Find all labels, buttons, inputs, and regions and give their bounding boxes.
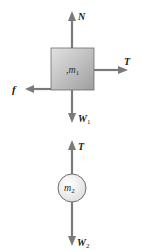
tension-force-label-block: T: [124, 56, 131, 67]
tension-force-label-ball: T: [78, 141, 85, 152]
friction-force-label: f: [12, 83, 17, 95]
free-body-diagram: N T f W1 ,m1 T: [0, 0, 142, 251]
weight-force-label-ball: W2: [77, 237, 90, 250]
tension-force-arrow-ball: [68, 140, 76, 174]
tension-force-arrow-block: [94, 66, 128, 74]
normal-force-arrow: [68, 11, 76, 48]
ball-fbd: T W2 m2: [58, 140, 90, 250]
friction-force-arrow: [25, 85, 51, 93]
weight-force-arrow-ball: [68, 202, 76, 246]
weight-force-arrow-block: [68, 90, 76, 123]
block-fbd: N T f W1 ,m1: [12, 11, 131, 126]
normal-force-label: N: [77, 11, 86, 22]
weight-force-label-block: W1: [78, 113, 91, 126]
